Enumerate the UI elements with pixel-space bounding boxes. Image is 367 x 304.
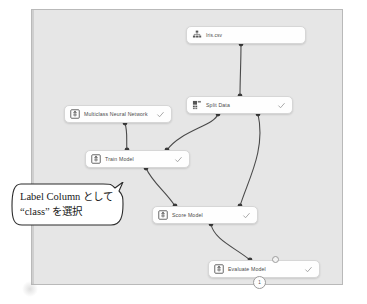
node-label: Train Model: [105, 156, 174, 162]
node-label: Iris.csv: [206, 33, 305, 38]
dataset-icon: [192, 30, 202, 40]
pipeline-node-train-model[interactable]: Train Model: [85, 150, 190, 168]
check-icon: [304, 265, 313, 274]
canvas-corner-smudge: [22, 281, 38, 297]
pipeline-node-evaluate-model[interactable]: Evaluate Model: [208, 260, 320, 278]
node-label: Score Model: [172, 212, 242, 218]
score-model-icon: [158, 210, 168, 220]
pipeline-node-split-data[interactable]: Split Data: [186, 96, 293, 114]
node-label: Split Data: [206, 102, 277, 108]
callout-line-1: Label Column として: [20, 189, 128, 204]
pipeline-node-iris-csv[interactable]: Iris.csv: [186, 26, 306, 44]
algorithm-icon: [70, 109, 80, 119]
split-data-icon: [192, 100, 202, 110]
node-label: Multiclass Neural Network: [84, 111, 156, 117]
callout-text: Label Column として “class” を選択: [20, 189, 128, 219]
evaluate-model-count-badge[interactable]: 1: [253, 276, 266, 289]
pipeline-node-multiclass-neural-network[interactable]: Multiclass Neural Network: [64, 105, 172, 123]
evaluate-model-icon: [214, 264, 224, 274]
check-icon: [242, 211, 251, 220]
node-label: Evaluate Model: [228, 266, 304, 272]
evaluate-model-output-port[interactable]: [272, 256, 279, 263]
pipeline-node-score-model[interactable]: Score Model: [152, 206, 258, 224]
check-icon: [156, 110, 165, 119]
pipeline-canvas[interactable]: [31, 9, 343, 285]
check-icon: [277, 101, 286, 110]
train-model-icon: [91, 154, 101, 164]
annotation-callout: Label Column として “class” を選択: [11, 182, 132, 227]
callout-line-2: “class” を選択: [20, 204, 128, 219]
check-icon: [174, 155, 183, 164]
